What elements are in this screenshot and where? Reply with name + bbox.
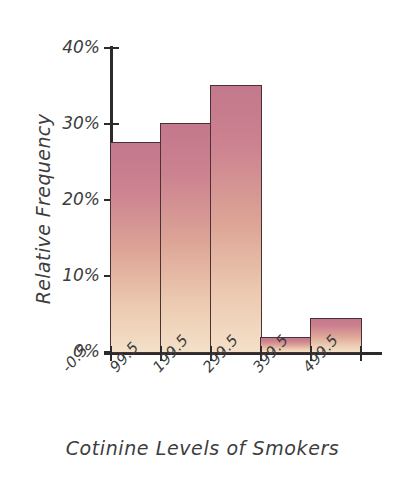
y-tick-30	[104, 123, 119, 125]
x-tick-5	[360, 346, 362, 361]
y-axis-label-30: 30%	[40, 113, 100, 133]
y-axis-label-10: 10%	[40, 265, 100, 285]
histogram-bar-0	[110, 142, 162, 353]
y-axis-label-20: 20%	[40, 189, 100, 209]
y-axis-label-40: 40%	[40, 37, 100, 57]
y-tick-40	[104, 47, 119, 49]
y-label-wrap-10: 10%	[36, 265, 100, 285]
histogram-bar-2	[210, 85, 262, 353]
x-axis-title: Cotinine Levels of Smokers	[0, 437, 405, 459]
y-label-wrap-20: 20%	[36, 189, 100, 209]
histogram-bar-1	[160, 123, 212, 353]
y-label-wrap-40: 40%	[36, 37, 100, 57]
histogram-chart: Relative Frequency 0% 10% 20% 30% 40% -0…	[0, 0, 405, 485]
y-label-wrap-30: 30%	[36, 113, 100, 133]
